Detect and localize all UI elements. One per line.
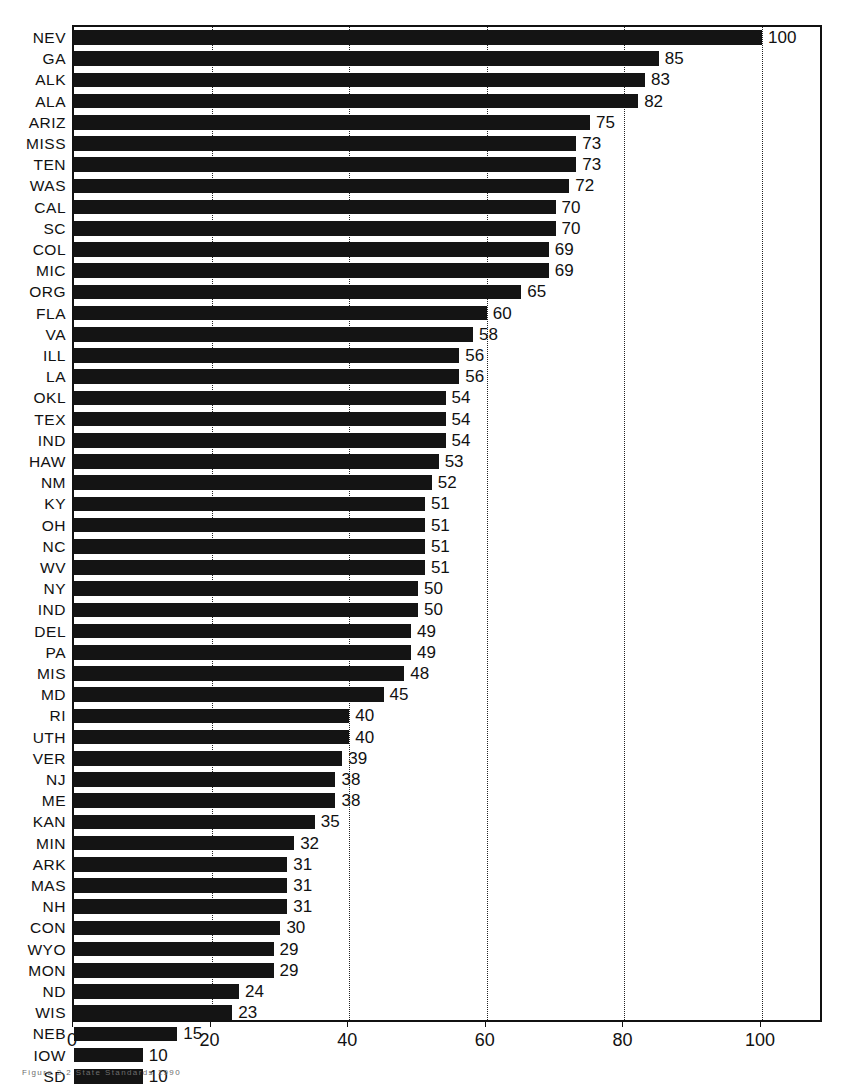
bar [74,751,342,766]
bar-value-label: 69 [555,239,574,260]
category-label: MIC [0,260,66,281]
category-label: MISS [0,133,66,154]
bar [74,242,549,257]
bar-row: OKL54 [0,387,842,408]
bar-value-label: 54 [452,409,471,430]
bar-value-label: 58 [479,324,498,345]
bar-value-label: 85 [665,48,684,69]
category-label: DEL [0,621,66,642]
bar [74,221,556,236]
category-label: ORG [0,281,66,302]
bar [74,624,411,639]
bar [74,115,590,130]
bar-row: TEX54 [0,409,842,430]
bar [74,475,432,490]
bar-row: WYO29 [0,939,842,960]
bar-value-label: 49 [417,621,436,642]
x-tick-label: 0 [67,1030,77,1051]
bar-row: NEV100 [0,27,842,48]
bar-row: MIS48 [0,663,842,684]
category-label: COL [0,239,66,260]
bar [74,391,446,406]
bar-row: VER39 [0,748,842,769]
x-tick-label: 100 [745,1030,775,1051]
category-label: NJ [0,769,66,790]
category-label: IOW [0,1045,66,1066]
category-label: WYO [0,939,66,960]
bar-value-label: 73 [582,154,601,175]
bar-row: ME38 [0,790,842,811]
category-label: SC [0,218,66,239]
bar-value-label: 35 [321,811,340,832]
bar [74,603,418,618]
bar [74,581,418,596]
bar-value-label: 30 [286,917,305,938]
x-tick-mark [622,1022,623,1027]
bar-row: MON29 [0,960,842,981]
category-label: MIN [0,833,66,854]
category-label: RI [0,705,66,726]
bar-row: OH51 [0,515,842,536]
bar [74,263,549,278]
bar-value-label: 31 [293,875,312,896]
bar-value-label: 52 [438,472,457,493]
bar-row: CON30 [0,917,842,938]
bar-value-label: 38 [341,790,360,811]
bar-row: DEL49 [0,621,842,642]
x-tick-mark [210,1022,211,1027]
bar [74,815,315,830]
bar [74,899,287,914]
category-label: MD [0,684,66,705]
bar-row: KY51 [0,493,842,514]
bar-row: ALK83 [0,69,842,90]
bar [74,730,349,745]
category-label: LA [0,366,66,387]
bar [74,94,638,109]
category-label: VER [0,748,66,769]
category-label: WIS [0,1002,66,1023]
bar [74,200,556,215]
x-tick-label: 40 [337,1030,357,1051]
bar-value-label: 23 [238,1002,257,1023]
x-tick-label: 80 [612,1030,632,1051]
bar [74,497,425,512]
category-label: MAS [0,875,66,896]
bar-row: ALA82 [0,91,842,112]
bar-value-label: 82 [644,91,663,112]
bar [74,645,411,660]
bar-value-label: 31 [293,896,312,917]
bar-row: IND50 [0,599,842,620]
bar-value-label: 40 [355,727,374,748]
category-label: ILL [0,345,66,366]
bar-value-label: 56 [465,366,484,387]
bar-value-label: 56 [465,345,484,366]
category-label: TEX [0,409,66,430]
bar [74,539,425,554]
bar-row: HAW53 [0,451,842,472]
x-tick-label: 20 [200,1030,220,1051]
bar [74,412,446,427]
bar [74,560,425,575]
bar-row: ILL56 [0,345,842,366]
bar-value-label: 54 [452,430,471,451]
bar-row: IND54 [0,430,842,451]
bar-value-label: 75 [596,112,615,133]
bar [74,942,274,957]
bar-value-label: 29 [280,939,299,960]
bar [74,136,576,151]
bar-value-label: 70 [562,197,581,218]
category-label: GA [0,48,66,69]
bar-row: SC70 [0,218,842,239]
category-label: MON [0,960,66,981]
bar-value-label: 31 [293,854,312,875]
bar-value-label: 65 [527,281,546,302]
bar-value-label: 100 [768,27,796,48]
bar [74,709,349,724]
category-label: VA [0,324,66,345]
category-label: PA [0,642,66,663]
category-label: NY [0,578,66,599]
bar-row: MD45 [0,684,842,705]
bar-value-label: 29 [280,960,299,981]
